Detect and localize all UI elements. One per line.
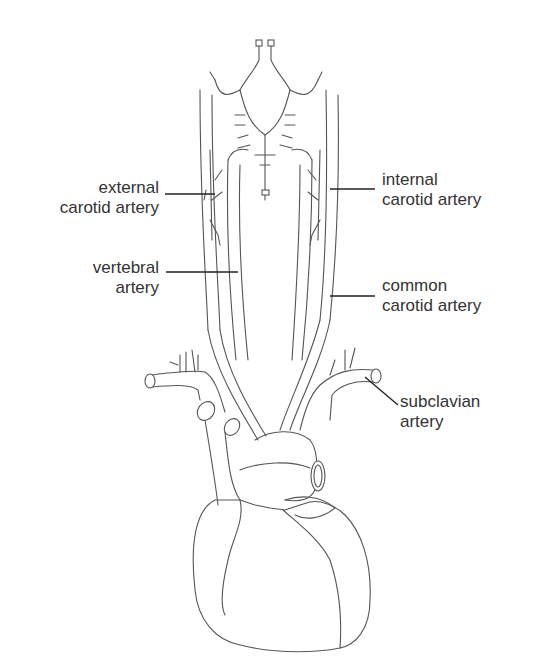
label-internal-carotid-artery: internal carotid artery [382,170,481,210]
heart [193,497,370,652]
label-line-1: external [60,178,159,198]
label-line-2: artery [400,412,480,432]
subclavian-right [300,348,381,430]
label-external-carotid-artery: external carotid artery [60,178,159,218]
label-line-1: common [382,276,481,296]
label-vertebral-artery: vertebral artery [93,258,159,298]
circle-of-willis [210,40,322,200]
subclavian-left [145,350,225,412]
leader-lines [165,189,398,405]
label-line-1: vertebral [93,258,159,278]
label-line-2: carotid artery [382,296,481,316]
external-carotid-branches-right [308,150,320,245]
artery-diagram [0,0,533,666]
label-line-1: subclavian [400,392,480,412]
aortic-arch [194,398,325,505]
label-line-2: artery [93,278,159,298]
label-line-2: carotid artery [60,198,159,218]
label-common-carotid-artery: common carotid artery [382,276,481,316]
label-subclavian-artery: subclavian artery [400,392,480,432]
label-line-2: carotid artery [382,190,481,210]
label-line-1: internal [382,170,481,190]
leader-subclavian [365,377,398,405]
